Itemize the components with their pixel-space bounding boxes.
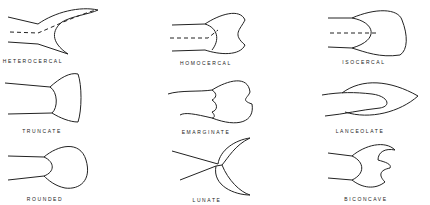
label-heterocercal: HETEROCERCAL	[3, 58, 63, 64]
biconcave-fin	[328, 145, 395, 187]
homocercal-fin	[170, 13, 245, 53]
emarginate-fin	[168, 81, 252, 123]
truncate-fin	[5, 74, 81, 122]
label-biconcave: BICONCAVE	[344, 196, 387, 202]
label-lunate: LUNATE	[193, 197, 222, 203]
label-lanceolate: LANCEOLATE	[336, 128, 385, 134]
heterocercal-fin	[8, 9, 98, 54]
label-rounded: ROUNDED	[27, 196, 63, 202]
rounded-fin	[8, 146, 88, 188]
label-homocercal: HOMOCERCAL	[180, 60, 232, 66]
label-truncate: TRUNCATE	[22, 128, 62, 134]
fin-diagram	[0, 0, 430, 205]
label-emarginate: EMARGINATE	[182, 129, 231, 135]
lanceolate-fin	[322, 83, 418, 116]
isocercal-fin	[328, 11, 406, 56]
lunate-fin	[172, 138, 250, 195]
label-isocercal: ISOCERCAL	[342, 59, 385, 65]
